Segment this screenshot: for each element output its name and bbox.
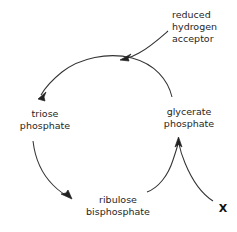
- label-triose-phosphate-line2: phosphate: [20, 120, 70, 132]
- arc-ribulose-to-glycerate: [147, 144, 178, 192]
- label-unknown-input-x: X: [219, 203, 227, 215]
- label-glycerate-phosphate: glycerate phosphate: [164, 106, 214, 130]
- label-reduced-hydrogen-acceptor-line1: reduced: [172, 9, 217, 21]
- label-ribulose-bisphosphate-line1: ribulose: [86, 194, 150, 206]
- arc-x-to-glycerate: [179, 144, 213, 201]
- label-reduced-hydrogen-acceptor-line2: hydrogen: [172, 21, 217, 33]
- arc-triose-to-ribulose: [33, 141, 68, 196]
- label-triose-phosphate: triose phosphate: [20, 108, 70, 132]
- label-ribulose-bisphosphate-line2: bisphosphate: [86, 206, 150, 218]
- label-glycerate-phosphate-line1: glycerate: [164, 106, 214, 118]
- arrowhead-to-ribulose-icon: [61, 190, 72, 199]
- calvin-cycle-diagram: reduced hydrogen acceptor triose phospha…: [0, 0, 237, 232]
- label-ribulose-bisphosphate: ribulose bisphosphate: [86, 194, 150, 218]
- label-reduced-hydrogen-acceptor: reduced hydrogen acceptor: [172, 9, 217, 45]
- arrowhead-to-glycerate-icon: [175, 137, 182, 147]
- label-reduced-hydrogen-acceptor-line3: acceptor: [172, 33, 217, 45]
- label-glycerate-phosphate-line2: phosphate: [164, 118, 214, 130]
- arc-glycerate-to-triose: [41, 56, 172, 97]
- label-triose-phosphate-line1: triose: [20, 108, 70, 120]
